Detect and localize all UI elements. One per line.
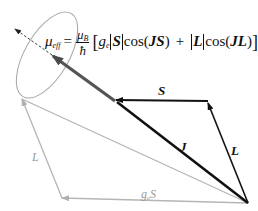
formula-JL: JL	[230, 34, 247, 49]
abs-bar	[122, 34, 123, 50]
formula-eff-subscript: eff	[53, 42, 61, 50]
label-gS-subscript: e	[147, 194, 150, 202]
close-bracket: ]	[252, 33, 258, 51]
formula-JS: JS	[149, 34, 165, 49]
S-vector	[116, 100, 208, 101]
formula-mu: μ	[45, 34, 53, 49]
abs-bar	[191, 34, 192, 50]
formula-equals: =	[64, 34, 72, 49]
abs-bar	[203, 34, 204, 50]
label-S: S	[158, 84, 165, 97]
formula-fraction: μB ħ	[76, 28, 89, 57]
fraction-numerator: μB	[76, 28, 89, 43]
formula-cos2: cos(	[205, 34, 230, 49]
abs-bar	[110, 34, 111, 50]
mu-eff-formula: μeff = μB ħ [ ge S cos(JS) + L cos(JL) ]	[45, 27, 258, 56]
formula-plus: +	[176, 34, 184, 49]
label-L: L	[231, 144, 239, 157]
formula-close1: )	[165, 34, 170, 49]
vector-diagram: μeff = μB ħ [ ge S cos(JS) + L cos(JL) ]…	[0, 0, 258, 211]
formula-g: g	[98, 34, 106, 49]
formula-cos1: cos(	[124, 34, 149, 49]
label-L-gray: L	[32, 151, 39, 163]
mu-b: μ	[77, 27, 84, 42]
mu-b-subscript: B	[84, 34, 89, 43]
formula-g-subscript: e	[106, 42, 110, 50]
label-J: J	[180, 140, 187, 153]
fraction-denominator: ħ	[79, 43, 86, 57]
formula-L: L	[193, 34, 202, 49]
formula-S: S	[112, 34, 120, 49]
label-gS-S: S	[150, 187, 156, 201]
mu-eff-vector	[53, 56, 115, 101]
label-gS: geS	[141, 188, 156, 200]
gray-L-vector	[22, 99, 62, 198]
